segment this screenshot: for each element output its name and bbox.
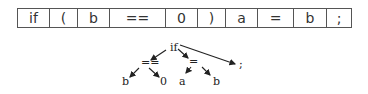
edge-if-to-assign <box>178 49 188 58</box>
tree-node-b-left: b <box>122 75 129 88</box>
tree-node-root: if <box>170 41 179 54</box>
edge-eq-to-b <box>130 68 139 77</box>
tree-node-zero: 0 <box>160 75 167 88</box>
edge-assign-to-b <box>202 67 210 75</box>
tree-node-eq-compare: == <box>141 56 159 69</box>
tree-node-a: a <box>179 75 186 88</box>
syntax-tree: if == = ; b 0 a b <box>0 0 368 94</box>
tree-node-assign: = <box>189 55 198 68</box>
tree-node-b-right: b <box>213 75 220 88</box>
edge-eq-to-zero <box>149 68 159 77</box>
tree-node-semicolon: ; <box>239 58 243 71</box>
